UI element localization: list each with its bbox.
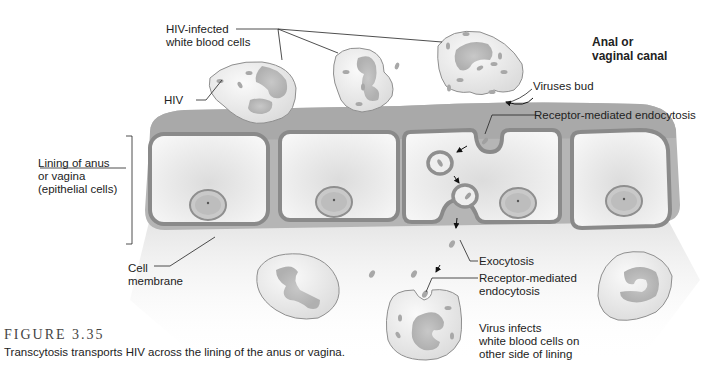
label-hiv: HIV: [164, 94, 183, 107]
white-blood-cell-bottom-infected: [386, 289, 461, 360]
white-blood-cell-top-3: [438, 31, 523, 94]
transcytosis-diagram: HIV-infected white blood cells HIV Anal …: [0, 0, 718, 384]
white-blood-cell-top-2: [333, 48, 400, 112]
label-canal: Anal or vaginal canal: [592, 35, 667, 63]
label-hiv-infected-cells: HIV-infected white blood cells: [166, 23, 250, 49]
label-virus-infects: Virus infects white blood cells on other…: [479, 322, 579, 361]
label-receptor-mediated-endocytosis-top: Receptor-mediated endocytosis: [534, 109, 696, 122]
epithelial-cell-2: [280, 132, 398, 220]
figure-number: FIGURE 3.35: [4, 327, 105, 343]
epithelial-cell-1: [150, 134, 268, 224]
label-cell-membrane: Cell membrane: [128, 262, 183, 288]
label-viruses-bud: Viruses bud: [533, 80, 594, 93]
label-receptor-mediated-endocytosis-bottom: Receptor-mediated endocytosis: [479, 272, 577, 298]
figure-caption: Transcytosis transports HIV across the l…: [4, 346, 345, 358]
epithelial-cell-4: [572, 130, 670, 228]
label-exocytosis: Exocytosis: [479, 255, 534, 268]
label-lining: Lining of anus or vagina (epithelial cel…: [38, 157, 117, 196]
